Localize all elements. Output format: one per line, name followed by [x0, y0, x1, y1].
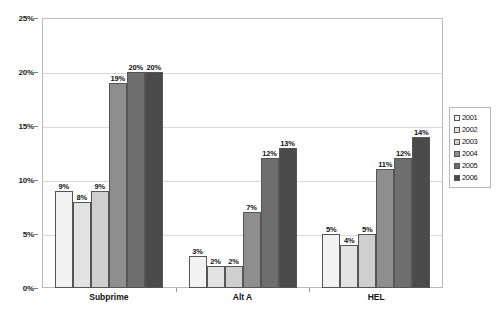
y-tick-label: 0% [23, 284, 34, 293]
bar-value-label: 2% [210, 257, 220, 266]
y-tick-mark [34, 72, 38, 73]
y-tick-label: 25% [19, 14, 34, 23]
bar: 7% [243, 212, 261, 288]
legend-item[interactable]: 2006 [454, 172, 487, 183]
bar-value-label: 2% [228, 257, 238, 266]
bar-value-label: 12% [262, 149, 276, 158]
bar: 20% [145, 72, 163, 288]
bar: 3% [189, 256, 207, 288]
bar-chart: 0%5%10%15%20%25% 9%8%9%19%20%20%3%2%2%7%… [0, 0, 496, 312]
x-category-label: Alt A [233, 292, 253, 302]
bar: 11% [376, 169, 394, 288]
bar-value-label: 4% [344, 236, 354, 245]
bar: 19% [109, 83, 127, 288]
bar-value-label: 9% [95, 182, 105, 191]
bar-group: 3%2%2%7%12%13% [189, 18, 297, 288]
y-tick-label: 15% [19, 122, 34, 131]
legend-swatch-icon [454, 151, 460, 157]
bar-value-label: 13% [280, 139, 294, 148]
bar: 20% [127, 72, 145, 288]
y-tick-label: 20% [19, 68, 34, 77]
legend-item[interactable]: 2001 [454, 112, 487, 123]
legend-label: 2001 [462, 113, 478, 122]
legend: 200120022003200420052006 [449, 107, 491, 188]
bar-value-label: 3% [192, 247, 202, 256]
bar: 4% [340, 245, 358, 288]
bar-value-label: 7% [246, 203, 256, 212]
bar: 5% [322, 234, 340, 288]
legend-swatch-icon [454, 175, 460, 181]
legend-item[interactable]: 2003 [454, 136, 487, 147]
bar: 2% [207, 266, 225, 288]
y-tick-mark [34, 234, 38, 235]
bar: 14% [412, 137, 430, 288]
legend-label: 2003 [462, 137, 478, 146]
bar-value-label: 5% [326, 225, 336, 234]
bar: 12% [261, 158, 279, 288]
bar-value-label: 8% [77, 193, 87, 202]
legend-swatch-icon [454, 127, 460, 133]
bar: 2% [225, 266, 243, 288]
bar-value-label: 20% [129, 63, 143, 72]
bar-value-label: 9% [59, 182, 69, 191]
y-axis: 0%5%10%15%20%25% [0, 18, 38, 288]
bar-value-label: 19% [111, 74, 125, 83]
legend-label: 2005 [462, 161, 478, 170]
bar-value-label: 5% [362, 225, 372, 234]
legend-label: 2006 [462, 173, 478, 182]
legend-item[interactable]: 2005 [454, 160, 487, 171]
bar-group: 5%4%5%11%12%14% [322, 18, 430, 288]
x-tick-mark [176, 288, 177, 292]
bar-value-label: 14% [414, 128, 428, 137]
bar: 12% [394, 158, 412, 288]
bar-group: 9%8%9%19%20%20% [55, 18, 163, 288]
y-tick-label: 5% [23, 230, 34, 239]
bar-value-label: 11% [378, 160, 392, 169]
legend-label: 2004 [462, 149, 478, 158]
bar: 8% [73, 202, 91, 288]
y-tick-label: 10% [19, 176, 34, 185]
bar-value-label: 12% [396, 149, 410, 158]
y-tick-mark [34, 288, 38, 289]
bar: 9% [55, 191, 73, 288]
x-category-label: HEL [368, 292, 385, 302]
bar-value-label: 20% [147, 63, 161, 72]
legend-swatch-icon [454, 115, 460, 121]
x-category-label: Subprime [89, 292, 128, 302]
x-axis: SubprimeAlt AHEL [42, 292, 443, 308]
bar: 5% [358, 234, 376, 288]
bar: 13% [279, 148, 297, 288]
y-tick-mark [34, 18, 38, 19]
legend-label: 2002 [462, 125, 478, 134]
legend-item[interactable]: 2002 [454, 124, 487, 135]
legend-swatch-icon [454, 163, 460, 169]
bar: 9% [91, 191, 109, 288]
legend-swatch-icon [454, 139, 460, 145]
y-tick-mark [34, 180, 38, 181]
legend-item[interactable]: 2004 [454, 148, 487, 159]
bar-groups: 9%8%9%19%20%20%3%2%2%7%12%13%5%4%5%11%12… [42, 18, 443, 288]
x-tick-mark [309, 288, 310, 292]
y-tick-mark [34, 126, 38, 127]
